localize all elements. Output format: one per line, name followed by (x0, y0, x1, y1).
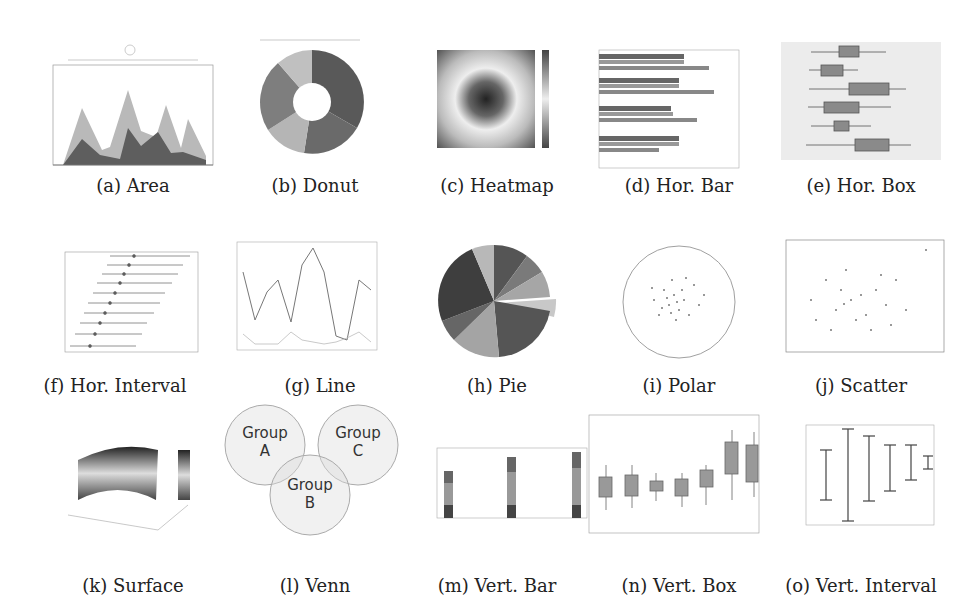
vertical-bar-chart (402, 420, 592, 580)
caption-hor-interval: (f) Hor. Interval (20, 375, 210, 396)
caption-line: (g) Line (225, 375, 415, 396)
caption-scatter: (j) Scatter (766, 375, 956, 396)
donut-chart (220, 20, 410, 180)
horizontal-interval-chart (20, 220, 210, 380)
panel-pie: (h) Pie (402, 220, 592, 420)
caption-area: (a) Area (38, 175, 228, 196)
caption-vert-box: (n) Vert. Box (584, 575, 774, 596)
panel-donut: (b) Donut (220, 20, 410, 220)
venn-diagram: Group A Group C Group B (220, 400, 410, 560)
vertical-interval-chart (766, 405, 956, 565)
horizontal-box-chart (766, 20, 956, 180)
panel-hor-bar: (d) Hor. Bar (584, 20, 774, 220)
panel-polar: (i) Polar (584, 220, 774, 420)
panel-vert-interval: (o) Vert. Interval (766, 405, 956, 605)
surface-chart (38, 420, 228, 580)
caption-polar: (i) Polar (584, 375, 774, 396)
caption-hor-box: (e) Hor. Box (766, 175, 956, 196)
venn-label-a1: Group (242, 424, 288, 442)
venn-label-c2: C (353, 442, 363, 460)
caption-heatmap: (c) Heatmap (402, 175, 592, 196)
caption-pie: (h) Pie (402, 375, 592, 396)
venn-label-b1: Group (287, 476, 333, 494)
polar-chart (584, 220, 774, 380)
panel-venn: Group A Group C Group B (l) Venn (220, 400, 410, 600)
panel-hor-box: (e) Hor. Box (766, 20, 956, 220)
panel-surface: (k) Surface (38, 420, 228, 608)
venn-label-a2: A (260, 442, 271, 460)
vertical-box-chart (584, 405, 774, 565)
horizontal-bar-chart (584, 20, 774, 180)
panel-scatter: (j) Scatter (766, 220, 956, 420)
caption-surface: (k) Surface (38, 575, 228, 596)
panel-heatmap: (c) Heatmap (402, 20, 592, 220)
venn-label-b2: B (305, 494, 315, 512)
caption-vert-interval: (o) Vert. Interval (766, 575, 956, 596)
panel-line: (g) Line (225, 220, 415, 420)
scatter-chart (766, 220, 956, 380)
caption-venn: (l) Venn (220, 575, 410, 596)
panel-vert-box: (n) Vert. Box (584, 405, 774, 605)
panel-hor-interval: (f) Hor. Interval (20, 220, 210, 420)
venn-label-c1: Group (335, 424, 381, 442)
pie-chart (402, 220, 592, 380)
caption-vert-bar: (m) Vert. Bar (402, 575, 592, 596)
line-chart (225, 220, 415, 380)
heatmap-chart (402, 20, 592, 180)
area-chart (38, 20, 228, 180)
caption-hor-bar: (d) Hor. Bar (584, 175, 774, 196)
caption-donut: (b) Donut (220, 175, 410, 196)
panel-area: (a) Area (38, 20, 228, 220)
panel-vert-bar: (m) Vert. Bar (402, 420, 592, 608)
